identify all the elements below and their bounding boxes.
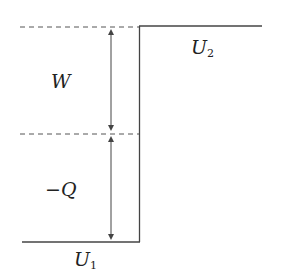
work-label: W — [51, 72, 71, 91]
diagram-lines — [0, 0, 283, 271]
energy-level-diagram: W −Q U2 U1 — [0, 0, 283, 271]
u2-label: U2 — [191, 38, 214, 59]
heat-label: −Q — [45, 180, 77, 199]
u1-label: U1 — [74, 250, 97, 271]
